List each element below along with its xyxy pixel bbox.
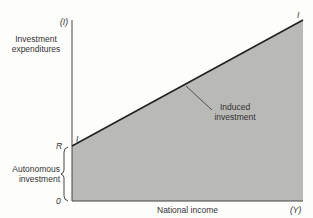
y-axis-title-line2: expenditures <box>6 44 66 54</box>
autonomous-label-line2: investment <box>0 174 60 184</box>
y-axis-title-line1: Investment <box>6 34 66 44</box>
induced-label-line2: investment <box>205 112 265 122</box>
line-label-end: I <box>297 10 299 20</box>
x-axis-title: National income <box>157 205 218 215</box>
origin-label: 0 <box>56 196 61 206</box>
investment-area <box>72 20 303 201</box>
autonomous-label-line1: Autonomous <box>0 164 60 174</box>
investment-function-diagram: (I) Investment expenditures I I R 0 Auto… <box>0 0 313 218</box>
intercept-label: R <box>56 141 62 151</box>
induced-label-line1: Induced <box>205 102 265 112</box>
y-axis-symbol: (I) <box>60 17 68 27</box>
x-axis-symbol: (Y) <box>290 205 301 215</box>
autonomous-brace-icon <box>61 147 68 201</box>
line-label-start: I <box>76 134 78 144</box>
diagram-canvas <box>0 0 313 218</box>
